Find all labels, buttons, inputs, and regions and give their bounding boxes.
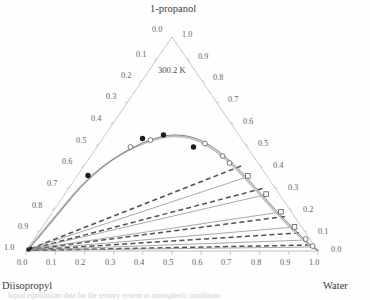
vertex-label-bottom-right: Water — [323, 281, 348, 292]
left-tick-5: 0.6 — [62, 158, 72, 166]
tie-lines-experimental — [29, 177, 314, 251]
open-marker-2 — [148, 138, 153, 143]
bottom-tick-4: 0.4 — [134, 259, 144, 267]
right-tick-0: 0.9 — [198, 53, 208, 61]
bottom-tick-3: 0.3 — [105, 259, 115, 267]
left-tick-6: 0.7 — [47, 180, 57, 188]
left-tick-7: 0.8 — [32, 202, 42, 210]
exp-marker-4 — [191, 144, 196, 149]
right-tick-3: 0.6 — [243, 118, 253, 126]
right-tick-7: 0.2 — [303, 206, 313, 214]
bottom-tick-0: 0.0 — [17, 259, 27, 267]
left-tick-0: 0.1 — [136, 51, 146, 59]
endpoint-marker-6 — [310, 244, 315, 249]
bottom-tick-9: 0.9 — [280, 259, 290, 267]
open-marker-1 — [128, 145, 133, 150]
bottom-tick-5: 0.5 — [163, 259, 173, 267]
left-tick-8: 0.9 — [18, 223, 28, 231]
right-tick-4: 0.5 — [258, 140, 268, 148]
right-tick-1: 0.8 — [213, 74, 223, 82]
tie-line-exp-3 — [30, 212, 281, 249]
open-marker-3 — [203, 141, 208, 146]
left-tick-3: 0.4 — [91, 115, 101, 123]
right-tick-5: 0.4 — [273, 162, 283, 170]
apex-tick-right: 1.0 — [182, 31, 192, 39]
right-tick-9: 0.0 — [331, 246, 341, 254]
endpoint-marker-3 — [279, 209, 284, 214]
bottom-axis-ticks — [26, 251, 318, 255]
endpoint-marker-2 — [264, 192, 269, 197]
bottom-tick-10: 1.0 — [309, 259, 319, 267]
left-tick-2: 0.3 — [106, 93, 116, 101]
endpoint-marker-4 — [292, 225, 297, 230]
bottom-tick-8: 0.8 — [251, 259, 261, 267]
left-tick-4: 0.5 — [76, 137, 86, 145]
right-tick-6: 0.3 — [288, 184, 298, 192]
temperature-annotation: 300.2 K — [158, 66, 186, 75]
left-tick-1: 0.2 — [121, 72, 131, 80]
exp-marker-1 — [85, 173, 90, 178]
bottom-tick-7: 0.7 — [221, 259, 231, 267]
bottom-tick-2: 0.2 — [75, 259, 85, 267]
endpoint-marker-5 — [303, 237, 308, 242]
left-tick-9: 1.0 — [4, 244, 14, 252]
figure-caption-faint: liquid equilibrium data for the ternary … — [8, 291, 368, 300]
exp-marker-3 — [161, 132, 166, 137]
bottom-tick-6: 0.6 — [192, 259, 202, 267]
right-tick-8: 0.1 — [318, 228, 328, 236]
vertex-label-top: 1-propanol — [150, 4, 196, 15]
open-marker-4 — [220, 154, 225, 159]
endpoint-marker-7 — [227, 161, 232, 166]
endpoint-marker-1 — [246, 174, 251, 179]
vertex-label-bottom-left: Diisopropyl — [2, 281, 52, 292]
right-tick-2: 0.7 — [228, 96, 238, 104]
exp-marker-2 — [140, 136, 145, 141]
bottom-tick-1: 0.1 — [46, 259, 56, 267]
tie-line-calc-3 — [30, 217, 286, 250]
apex-tick-left: 0.0 — [152, 26, 162, 34]
